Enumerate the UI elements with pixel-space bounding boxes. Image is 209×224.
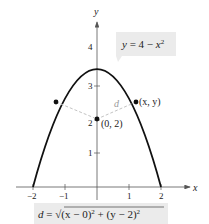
y-tick-label: 1 xyxy=(88,148,93,158)
point-label-center: (0, 2) xyxy=(101,118,123,130)
center-point xyxy=(95,117,100,122)
y-tick-label: 4 xyxy=(88,42,93,52)
equation-callout: y = 4 − x2 xyxy=(116,32,176,62)
distance-lines: d xyxy=(56,98,136,119)
parabola-distance-figure: x −2 −1 1 2 y 1 2 3 4 xyxy=(0,0,209,224)
x-tick-label: −2 xyxy=(27,191,37,201)
x-tick-label: 2 xyxy=(159,191,164,201)
distance-formula-box: d = √(x − 0)2 + (y − 2)2 xyxy=(34,203,168,224)
y-tick-label: 3 xyxy=(88,81,93,91)
distance-formula: d = √(x − 0)2 + (y − 2)2 xyxy=(38,208,141,221)
distance-label: d xyxy=(114,98,120,109)
y-axis-label: y xyxy=(93,6,99,17)
y-axis: y 1 2 3 4 xyxy=(88,6,100,200)
x-axis-label: x xyxy=(192,182,198,193)
x-axis: x −2 −1 1 2 xyxy=(16,182,198,201)
y-tick-label: 2 xyxy=(88,118,93,128)
x-tick-label: 1 xyxy=(127,191,132,201)
curve-equation: y = 4 − x2 xyxy=(121,38,165,50)
point-label-xy: (x, y) xyxy=(139,96,161,108)
left-point xyxy=(54,100,59,105)
x-tick-label: −1 xyxy=(59,191,69,201)
right-point xyxy=(134,100,139,105)
